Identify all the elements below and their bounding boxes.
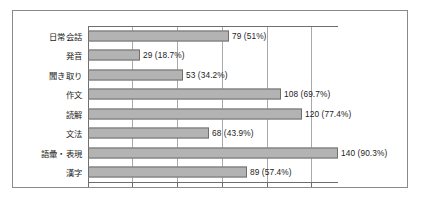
value-label-3: 108 (69.7%) [284, 89, 330, 99]
axis-bottom-spine [88, 182, 338, 183]
chart-figure: 日常会話 79 (51%) 発音 29 (18.7%) 聞き取り 53 (34.… [0, 0, 427, 208]
bar-row: 日常会話 79 (51%) [0, 26, 427, 46]
bar-row: 聞き取り 53 (34.2%) [0, 65, 427, 85]
category-label: 日常会話 [0, 30, 82, 42]
bar-row: 読解 120 (77.4%) [0, 104, 427, 124]
bar-row: 作文 108 (69.7%) [0, 85, 427, 105]
category-label: 読解 [0, 108, 82, 120]
bar-row: 語彙・表現 140 (90.3%) [0, 143, 427, 163]
category-label: 発音 [0, 49, 82, 61]
bar-3 [88, 89, 281, 100]
x-tick-25 [132, 183, 133, 187]
x-tick-0 [88, 183, 89, 187]
category-label: 漢字 [0, 166, 82, 178]
x-tick-50 [177, 183, 178, 187]
x-tick-125 [311, 183, 312, 187]
bar-5 [88, 128, 209, 139]
value-label-7: 89 (57.4%) [250, 167, 292, 177]
bar-6 [88, 147, 338, 158]
value-label-0: 79 (51%) [232, 31, 266, 41]
x-tick-100 [267, 183, 268, 187]
category-label: 文法 [0, 127, 82, 139]
bar-1 [88, 50, 140, 61]
value-label-4: 120 (77.4%) [305, 109, 351, 119]
value-label-5: 68 (43.9%) [212, 128, 254, 138]
category-label: 語彙・表現 [0, 147, 82, 159]
bar-2 [88, 69, 183, 80]
category-label: 作文 [0, 88, 82, 100]
bar-row: 発音 29 (18.7%) [0, 46, 427, 66]
bar-7 [88, 167, 247, 178]
value-label-1: 29 (18.7%) [143, 50, 185, 60]
bar-row: 文法 68 (43.9%) [0, 124, 427, 144]
bar-row: 漢字 89 (57.4%) [0, 163, 427, 183]
value-label-6: 140 (90.3%) [341, 148, 387, 158]
value-label-2: 53 (34.2%) [186, 70, 228, 80]
x-tick-75 [222, 183, 223, 187]
bar-4 [88, 108, 302, 119]
bar-0 [88, 30, 229, 41]
category-label: 聞き取り [0, 69, 82, 81]
